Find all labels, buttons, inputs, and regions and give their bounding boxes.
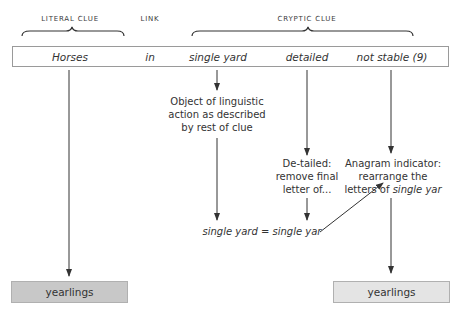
note-detailed: De-tailed: remove final letter of...: [276, 157, 339, 196]
result-box-literal: yearlings: [11, 281, 128, 303]
note-anagram-line-3-italic: single yar: [393, 184, 442, 195]
result-box-cryptic: yearlings: [333, 281, 450, 303]
note-detailed-line-3: letter of...: [276, 183, 339, 196]
note-object-line-1: Object of linguistic: [168, 95, 265, 108]
note-detailed-line-2: remove final: [276, 170, 339, 183]
note-anagram-line-3: letters of single yar: [344, 183, 441, 196]
note-object-line-3: by rest of clue: [168, 121, 265, 134]
note-anagram-line-3-prefix: letters of: [344, 184, 392, 195]
cryptic-brace: [192, 27, 413, 36]
note-object-of-action: Object of linguistic action as described…: [168, 95, 265, 134]
equation-single-yard: single yard = single yar: [203, 225, 322, 238]
note-detailed-line-1: De-tailed:: [276, 157, 339, 170]
note-anagram-line-1: Anagram indicator:: [344, 157, 441, 170]
note-anagram-line-2: rearrange the: [344, 170, 441, 183]
note-object-line-2: action as described: [168, 108, 265, 121]
note-anagram-indicator: Anagram indicator: rearrange the letters…: [344, 157, 441, 196]
literal-brace: [22, 27, 124, 36]
